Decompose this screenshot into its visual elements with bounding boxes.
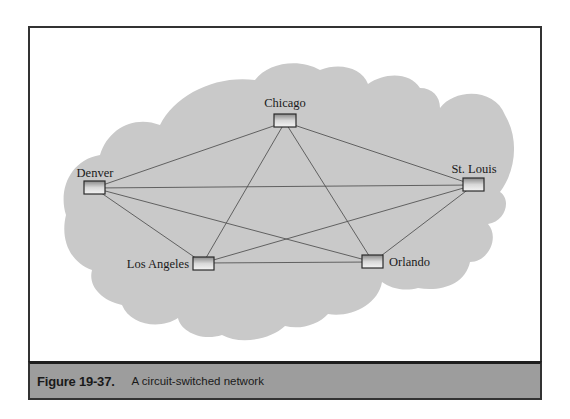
switch-icon <box>193 257 214 270</box>
node-orlando: Orlando <box>362 255 430 269</box>
switch-icon <box>362 255 383 268</box>
figure-caption-text: A circuit-switched network <box>132 375 264 387</box>
figure-number: Figure 19-37. <box>37 374 115 389</box>
node-label-orlando: Orlando <box>389 255 430 269</box>
switch-icon <box>463 178 484 191</box>
node-label-los-angeles: Los Angeles <box>127 257 189 271</box>
node-label-st-louis: St. Louis <box>451 162 496 176</box>
node-label-chicago: Chicago <box>264 96 306 110</box>
node-los-angeles: Los Angeles <box>127 257 214 271</box>
node-label-denver: Denver <box>77 166 115 180</box>
network-diagram: Chicago Denver St. Louis Los Angeles Orl… <box>0 0 570 419</box>
switch-icon <box>274 114 296 127</box>
switch-icon <box>84 181 105 194</box>
figure-caption: Figure 19-37. A circuit-switched network <box>28 361 542 400</box>
